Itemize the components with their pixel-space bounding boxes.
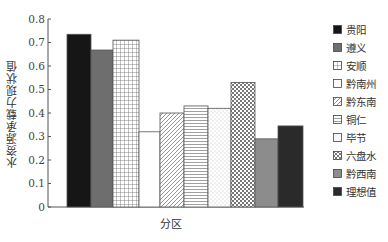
bar-黔西南 bbox=[255, 139, 278, 207]
legend-item: 理想值 bbox=[333, 184, 376, 198]
legend-item: 黔南州 bbox=[333, 76, 376, 90]
legend-swatch-icon bbox=[333, 187, 342, 196]
y-tick-label: 0.4 bbox=[28, 107, 45, 119]
y-tick-label: 0.3 bbox=[28, 130, 45, 142]
legend-swatch-icon bbox=[333, 97, 342, 106]
legend-swatch-icon bbox=[333, 115, 342, 124]
legend-item: 黔东南 bbox=[333, 94, 376, 108]
y-tick-label: 0 bbox=[38, 201, 45, 213]
legend-item: 毕节 bbox=[333, 130, 366, 144]
legend-item: 铜仁 bbox=[333, 112, 366, 126]
y-tick-label: 0.2 bbox=[28, 154, 45, 166]
legend-label: 黔东南 bbox=[346, 94, 376, 109]
legend-label: 黔西南 bbox=[346, 166, 376, 181]
y-tick-label: 0.6 bbox=[28, 60, 45, 72]
legend-item: 遵义 bbox=[333, 40, 366, 54]
bars bbox=[67, 34, 303, 207]
bar-理想值 bbox=[278, 126, 303, 207]
legend-swatch-icon bbox=[333, 61, 342, 70]
bar-chart: 00.10.20.30.40.50.60.70.8 bbox=[0, 0, 388, 242]
legend-label: 理想值 bbox=[346, 184, 376, 199]
legend-label: 六盘水 bbox=[346, 148, 376, 163]
bar-铜仁 bbox=[184, 106, 208, 207]
bar-毕节 bbox=[208, 108, 231, 207]
legend-label: 铜仁 bbox=[346, 112, 366, 127]
legend-label: 安顺 bbox=[346, 58, 366, 73]
legend-label: 毕节 bbox=[346, 130, 366, 145]
legend-label: 遵义 bbox=[346, 40, 366, 55]
legend-swatch-icon bbox=[333, 151, 342, 160]
bar-安顺 bbox=[113, 40, 139, 207]
x-axis-label: 分区 bbox=[160, 215, 182, 231]
y-tick-label: 0.7 bbox=[28, 36, 45, 48]
legend-item: 贵阳 bbox=[333, 22, 366, 36]
legend-swatch-icon bbox=[333, 25, 342, 34]
bar-黔东南 bbox=[160, 113, 184, 207]
legend-swatch-icon bbox=[333, 79, 342, 88]
legend-label: 贵阳 bbox=[346, 22, 366, 37]
y-tick-label: 0.8 bbox=[28, 13, 45, 25]
legend-item: 六盘水 bbox=[333, 148, 376, 162]
bar-贵阳 bbox=[67, 34, 91, 207]
bar-六盘水 bbox=[231, 82, 255, 207]
y-axis-label: 水资源承载力现状值 bbox=[6, 60, 20, 168]
bar-遵义 bbox=[91, 50, 113, 207]
legend-label: 黔南州 bbox=[346, 76, 376, 91]
legend-item: 黔西南 bbox=[333, 166, 376, 180]
legend-swatch-icon bbox=[333, 133, 342, 142]
legend-swatch-icon bbox=[333, 169, 342, 178]
y-tick-label: 0.5 bbox=[28, 83, 45, 95]
legend-swatch-icon bbox=[333, 43, 342, 52]
legend-item: 安顺 bbox=[333, 58, 366, 72]
y-tick-label: 0.1 bbox=[28, 177, 45, 189]
bar-黔南州 bbox=[139, 132, 160, 207]
